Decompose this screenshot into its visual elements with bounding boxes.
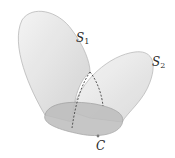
label-s1: S1: [76, 32, 89, 46]
label-curve-c: C: [96, 140, 105, 152]
surfaces-figure: [0, 0, 175, 158]
diagram-canvas: S1 S2 C: [0, 0, 175, 158]
curve-c-marker: [97, 135, 100, 138]
label-s2: S2: [152, 56, 165, 70]
